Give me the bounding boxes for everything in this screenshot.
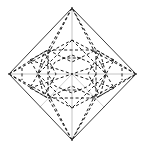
vertex-top [71,7,73,9]
vertex-right [135,73,137,75]
figure-root [0,0,143,148]
vertex-left [8,73,10,75]
geometric-diagram-canvas [0,0,143,148]
vertex-bottom [71,139,73,141]
